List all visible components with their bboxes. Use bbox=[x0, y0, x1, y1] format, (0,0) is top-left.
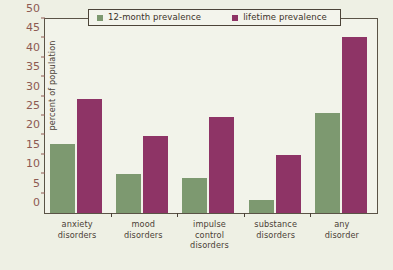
x-axis-category-label-line: anxiety bbox=[44, 219, 110, 230]
x-axis-tick-mark bbox=[244, 213, 245, 217]
x-axis-category-label: impulsecontroldisorders bbox=[176, 219, 242, 251]
x-axis-category-label: anxietydisorders bbox=[44, 219, 110, 240]
chart-legend: 12-month prevalence lifetime prevalence bbox=[88, 9, 341, 26]
bar-12-month bbox=[50, 144, 75, 213]
x-axis-category-label: substancedisorders bbox=[243, 219, 309, 240]
bar-group bbox=[111, 19, 177, 213]
bar-lifetime bbox=[77, 99, 102, 213]
y-axis-tick-label: 0 bbox=[33, 197, 40, 208]
x-axis-tick-mark bbox=[111, 213, 112, 217]
x-axis-tick-mark bbox=[177, 213, 178, 217]
legend-label-lifetime: lifetime prevalence bbox=[243, 13, 327, 22]
bar-lifetime bbox=[209, 117, 234, 214]
x-axis-category-label-line: any bbox=[309, 219, 375, 230]
y-axis-tick-label: 15 bbox=[26, 138, 40, 149]
bar-group bbox=[244, 19, 310, 213]
x-axis-category-label: mooddisorders bbox=[110, 219, 176, 240]
bar-lifetime bbox=[276, 155, 301, 213]
x-axis-category-label-line: mood bbox=[110, 219, 176, 230]
y-axis-tick-label: 10 bbox=[26, 158, 40, 169]
legend-swatch-green-icon bbox=[97, 15, 103, 21]
y-axis-tick-label: 35 bbox=[26, 61, 40, 72]
x-axis-category-label-line: disorders bbox=[243, 230, 309, 241]
bar-12-month bbox=[182, 178, 207, 213]
bar-lifetime bbox=[342, 37, 367, 213]
x-axis-category-label-line: disorders bbox=[176, 240, 242, 251]
legend-item-lifetime: lifetime prevalence bbox=[232, 13, 327, 22]
legend-swatch-purple-icon bbox=[232, 15, 238, 21]
x-axis-category-label-line: disorders bbox=[44, 230, 110, 241]
bar-12-month bbox=[315, 113, 340, 213]
x-axis-category-label: anydisorder bbox=[309, 219, 375, 240]
y-axis-tick-label: 20 bbox=[26, 119, 40, 130]
x-axis-category-label-line: disorder bbox=[309, 230, 375, 241]
x-axis-category-label-line: disorders bbox=[110, 230, 176, 241]
bar-lifetime bbox=[143, 136, 168, 213]
bar-group bbox=[310, 19, 376, 213]
bar-group bbox=[45, 19, 111, 213]
plot-area: percent of population 051015202530354045… bbox=[44, 18, 378, 214]
y-axis-tick-label: 50 bbox=[26, 3, 40, 14]
y-axis-tick-label: 45 bbox=[26, 22, 40, 33]
y-axis-tick-label: 40 bbox=[26, 41, 40, 52]
bar-chart: 12-month prevalence lifetime prevalence … bbox=[0, 0, 393, 270]
x-axis-category-label-line: control bbox=[176, 230, 242, 241]
x-axis-category-label-line: impulse bbox=[176, 219, 242, 230]
x-axis-category-label-line: substance bbox=[243, 219, 309, 230]
bar-12-month bbox=[249, 200, 274, 214]
x-axis-tick-mark bbox=[310, 213, 311, 217]
bar-12-month bbox=[116, 174, 141, 213]
legend-item-12-month: 12-month prevalence bbox=[97, 13, 201, 22]
legend-label-12-month: 12-month prevalence bbox=[108, 13, 201, 22]
bar-group bbox=[177, 19, 243, 213]
y-axis-tick-label: 5 bbox=[33, 177, 40, 188]
plot-inner: 05101520253035404550 bbox=[45, 19, 377, 213]
y-axis-tick-label: 25 bbox=[26, 100, 40, 111]
y-axis-tick-label: 30 bbox=[26, 80, 40, 91]
